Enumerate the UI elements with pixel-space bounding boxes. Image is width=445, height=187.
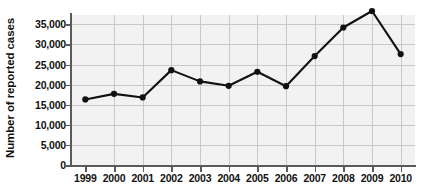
- y-axis-tick-mark: [64, 65, 70, 67]
- data-point-2010: [398, 51, 404, 57]
- data-point-1999: [82, 96, 88, 102]
- data-point-2003: [197, 78, 203, 84]
- x-axis-tick-label: 2010: [381, 172, 421, 184]
- data-point-2009: [369, 8, 375, 14]
- data-point-2002: [168, 67, 174, 73]
- data-point-2001: [140, 94, 146, 100]
- y-axis-tick-mark: [64, 165, 70, 167]
- data-point-2000: [111, 91, 117, 97]
- y-axis-tick-mark: [64, 24, 70, 26]
- y-axis-tick-mark: [64, 125, 70, 127]
- data-point-2004: [226, 83, 232, 89]
- data-point-2008: [340, 24, 346, 30]
- data-point-2007: [312, 53, 318, 59]
- series-markers: [82, 8, 404, 103]
- data-point-2006: [283, 83, 289, 89]
- data-series-layer: [0, 0, 445, 187]
- data-point-2005: [254, 69, 260, 75]
- y-axis-tick-mark: [64, 105, 70, 107]
- series-line-reported-cases: [85, 11, 400, 99]
- y-axis-tick-mark: [64, 85, 70, 87]
- line-chart: Number of reported cases 05,00010,00015,…: [0, 0, 445, 187]
- y-axis-tick-mark: [64, 44, 70, 46]
- y-axis-tick-mark: [64, 145, 70, 147]
